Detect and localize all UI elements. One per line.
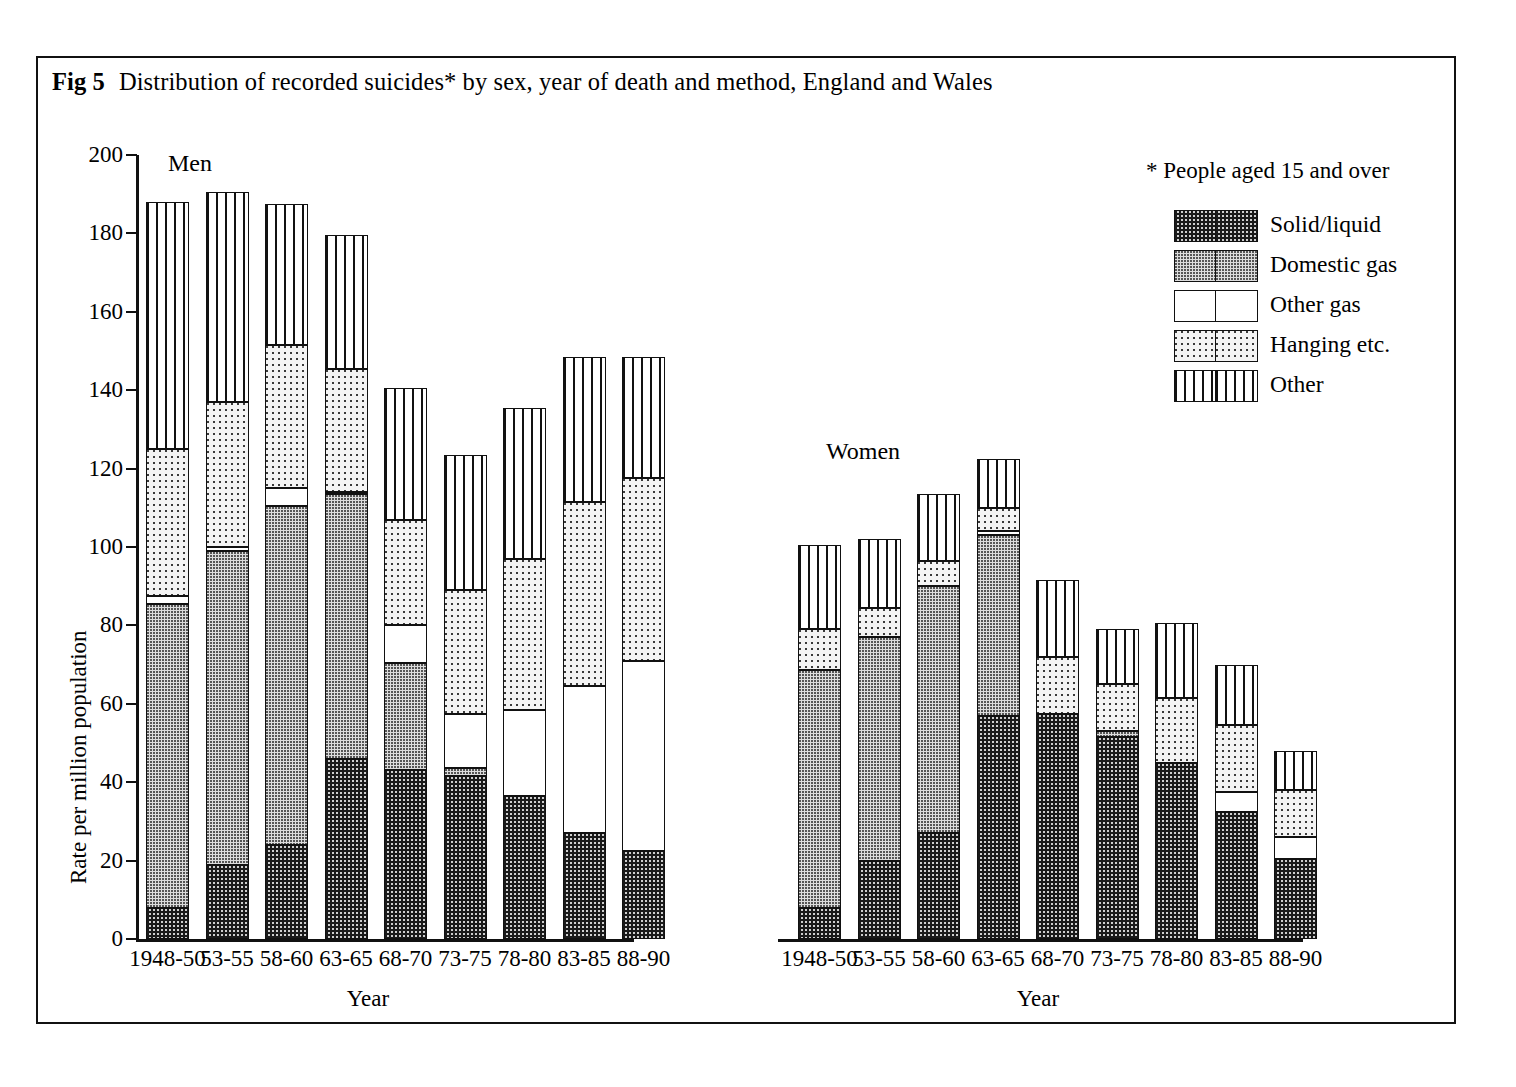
x-axis-tick-label: 88-90 [589,946,699,972]
x-axis-line [136,939,634,942]
bar-women-73-75[interactable] [1096,155,1139,939]
legend-swatch-half-right [1216,211,1257,241]
bar-segment-othergas [622,661,665,851]
bar-segment-solidliquid [325,759,368,939]
bar-segment-othergas [1215,792,1258,812]
legend-label-solidliquid: Solid/liquid [1270,211,1381,238]
y-axis-tick-mark [126,781,137,783]
bar-men-78-80[interactable] [503,155,546,939]
bar-segment-domesticgas [977,535,1020,715]
bar-segment-other [206,192,249,402]
bar-segment-other [146,202,189,449]
bar-men-58-60[interactable] [265,155,308,939]
bar-segment-solidliquid [146,908,189,939]
figure-page: Fig 5Distribution of recorded suicides* … [0,0,1516,1087]
bar-segment-solidliquid [917,833,960,939]
bar-segment-solidliquid [1036,714,1079,939]
bar-segment-other [384,388,427,519]
y-axis-tick-mark [126,232,137,234]
bar-segment-other [1215,665,1258,726]
bar-men-83-85[interactable] [563,155,606,939]
y-axis-tick-mark [126,311,137,313]
bar-men-53-55[interactable] [206,155,249,939]
legend-swatch-half-right [1216,331,1257,361]
legend-swatch-other [1174,370,1258,402]
bar-segment-domesticgas [1096,731,1139,737]
bar-segment-hanging [917,561,960,586]
bar-segment-other [503,408,546,559]
bar-segment-hanging [1215,725,1258,792]
x-axis-tick-label: 88-90 [1241,946,1351,972]
bar-men-68-70[interactable] [384,155,427,939]
bar-segment-hanging [977,508,1020,532]
bar-men-73-75[interactable] [444,155,487,939]
y-axis-tick-label: 0 [41,926,123,952]
bar-segment-other [563,357,606,502]
bar-segment-othergas [384,625,427,662]
legend-swatch-half-right [1216,251,1257,281]
bar-women-1948-50[interactable] [798,155,841,939]
bar-segment-hanging [858,608,901,637]
bar-segment-hanging [1096,684,1139,731]
bar-segment-domesticgas [917,586,960,833]
legend-swatch-solidliquid [1174,210,1258,242]
y-axis-tick-mark [126,703,137,705]
bar-women-58-60[interactable] [917,155,960,939]
bar-segment-other [622,357,665,479]
bar-segment-hanging [265,345,308,488]
legend-label-other: Other [1270,371,1324,398]
bar-segment-domesticgas [384,663,427,771]
bar-women-63-65[interactable] [977,155,1020,939]
bar-segment-other [1036,580,1079,656]
legend-swatch-half-right [1216,291,1257,321]
bar-segment-other [1155,623,1198,697]
bar-segment-solidliquid [503,796,546,939]
bar-segment-solidliquid [1096,737,1139,939]
figure-title: Fig 5Distribution of recorded suicides* … [52,68,993,96]
bar-men-63-65[interactable] [325,155,368,939]
legend-swatch-half-right [1216,371,1257,401]
bar-segment-solidliquid [265,845,308,939]
bar-segment-domesticgas [265,506,308,845]
bar-women-53-55[interactable] [858,155,901,939]
y-axis-tick-label: 120 [41,456,123,482]
legend-swatch-half-left [1175,251,1216,281]
bar-segment-othergas [325,492,368,494]
bar-men-1948-50[interactable] [146,155,189,939]
bar-segment-othergas [146,596,189,604]
bar-segment-solidliquid [206,865,249,939]
bar-segment-other [798,545,841,629]
bar-segment-other [1096,629,1139,684]
bar-segment-solidliquid [444,776,487,939]
bar-segment-solidliquid [798,908,841,939]
bar-segment-hanging [384,520,427,626]
bar-segment-domesticgas [206,551,249,865]
bar-segment-other [265,204,308,345]
y-axis-tick-mark [126,468,137,470]
y-axis-title: Rate per million population [66,630,92,884]
bar-segment-hanging [444,590,487,713]
legend-swatch-hanging [1174,330,1258,362]
bar-segment-solidliquid [1155,763,1198,939]
legend-swatch-domesticgas [1174,250,1258,282]
bar-segment-hanging [798,629,841,670]
figure-title-text: Distribution of recorded suicides* by se… [119,68,993,95]
legend-label-hanging: Hanging etc. [1270,331,1390,358]
y-axis-tick-mark [126,389,137,391]
bar-segment-domesticgas [798,670,841,907]
bar-men-88-90[interactable] [622,155,665,939]
bar-segment-hanging [1274,790,1317,837]
y-axis-tick-label: 180 [41,220,123,246]
bar-segment-domesticgas [325,494,368,759]
y-axis-tick-label: 100 [41,534,123,560]
bar-segment-hanging [146,449,189,596]
bar-segment-other [858,539,901,608]
bar-segment-hanging [563,502,606,686]
bar-segment-solidliquid [1215,812,1258,939]
bar-segment-hanging [622,478,665,660]
bar-segment-solidliquid [977,716,1020,939]
y-axis-tick-mark [126,624,137,626]
bar-women-68-70[interactable] [1036,155,1079,939]
bar-segment-domesticgas [858,637,901,860]
bar-segment-solidliquid [563,833,606,939]
